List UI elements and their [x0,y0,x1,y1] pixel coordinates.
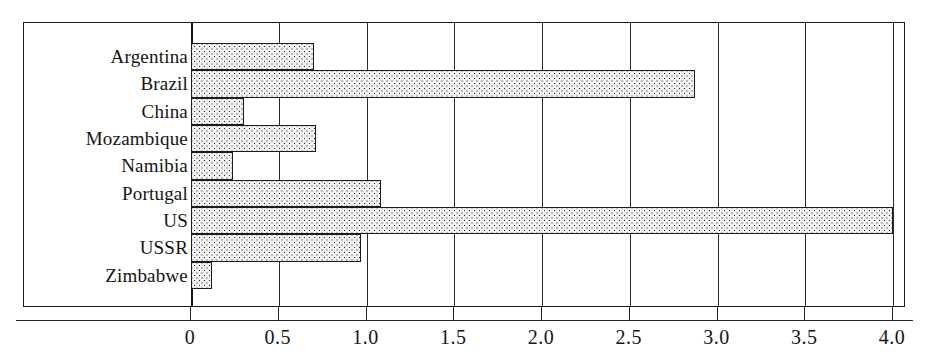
bar-zimbabwe [191,262,212,289]
category-label-ussr: USSR [24,234,191,261]
category-label-china: China [24,98,191,125]
category-label-namibia: Namibia [24,152,191,179]
x-tick-0 [190,307,191,320]
category-label-column: ArgentinaBrazilChinaMozambiqueNamibiaPor… [24,43,191,289]
plot-area-frame: ArgentinaBrazilChinaMozambiqueNamibiaPor… [23,22,905,307]
category-label-zimbabwe: Zimbabwe [24,262,191,289]
x-tick-label-2.0: 2.0 [511,326,571,349]
bar-row [191,180,904,207]
bar-mozambique [191,125,316,152]
bar-row [191,262,904,289]
bar-chart-figure: ArgentinaBrazilChinaMozambiqueNamibiaPor… [0,0,929,361]
x-tick-label-3.0: 3.0 [687,326,747,349]
x-tick-1.5 [453,307,454,320]
bar-brazil [191,70,695,97]
x-tick-label-1.0: 1.0 [336,326,396,349]
x-tick-label-1.5: 1.5 [423,326,483,349]
x-axis-line [16,320,913,321]
x-tick-2.0 [541,307,542,320]
bar-china [191,98,244,125]
x-tick-label-0: 0 [160,326,220,349]
bar-ussr [191,234,361,261]
category-label-portugal: Portugal [24,180,191,207]
bar-us [191,207,893,234]
x-tick-label-0.5: 0.5 [248,326,308,349]
x-tick-label-4.0: 4.0 [862,326,922,349]
bar-row [191,98,904,125]
bar-row [191,152,904,179]
x-tick-4.0 [892,307,893,320]
x-tick-2.5 [629,307,630,320]
x-tick-3.0 [717,307,718,320]
category-label-us: US [24,207,191,234]
category-label-mozambique: Mozambique [24,125,191,152]
x-tick-3.5 [804,307,805,320]
bar-namibia [191,152,233,179]
x-tick-label-2.5: 2.5 [599,326,659,349]
bar-row [191,234,904,261]
category-label-argentina: Argentina [24,43,191,70]
x-tick-label-3.5: 3.5 [774,326,834,349]
x-tick-1.0 [366,307,367,320]
bar-row [191,43,904,70]
bar-row [191,125,904,152]
bar-row [191,70,904,97]
bar-portugal [191,180,381,207]
bars-group [191,43,904,289]
bar-row [191,207,904,234]
category-label-brazil: Brazil [24,70,191,97]
x-tick-0.5 [278,307,279,320]
bar-argentina [191,43,314,70]
